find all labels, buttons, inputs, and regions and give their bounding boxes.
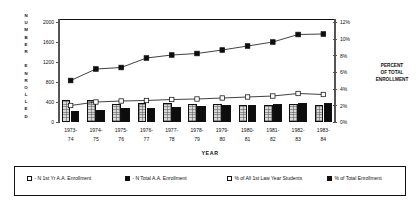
open-square-marker <box>119 99 123 103</box>
x-axis-tick-label-line1: 1975- <box>115 127 128 133</box>
x-axis-title: YEAR <box>0 150 420 156</box>
y-axis-left-title-char: N <box>20 12 32 19</box>
left-axis-tick-label: 1200 <box>30 59 54 65</box>
x-axis-tick-label-line1: 1980- <box>241 127 254 133</box>
open-square-marker <box>144 98 148 102</box>
chart-legend: - N 1st Yr A.A. Enrollment- N Total A.A.… <box>14 166 406 196</box>
open-square-icon <box>227 176 232 181</box>
plot-area: 2000160012008004000 12%10%8%6%4%2%0% <box>58 19 336 123</box>
filled-square-icon <box>125 176 130 181</box>
filled-square-marker <box>119 65 124 70</box>
open-square-marker <box>170 97 174 101</box>
legend-item-label: % of All 1st Law Year Students <box>234 175 312 182</box>
filled-square-marker <box>271 40 276 45</box>
y-axis-left-title-char: E <box>20 105 32 112</box>
legend-item: - N 1st Yr A.A. Enrollment <box>27 175 112 182</box>
filled-square-marker <box>321 32 326 37</box>
legend-item-label: - N 1st Yr A.A. Enrollment <box>34 175 112 182</box>
x-axis-tick-label-line1: 1983- <box>317 127 330 133</box>
filled-square-marker <box>94 67 99 72</box>
open-square-marker <box>271 94 275 98</box>
left-axis-tick-label: 2000 <box>30 19 54 25</box>
x-axis-tick-label: 1983-84 <box>308 126 338 143</box>
x-axis-tick-label-line2: 84 <box>308 135 338 144</box>
legend-item: % of All 1st Law Year Students <box>227 175 312 182</box>
right-axis-tick-label: 12% <box>340 19 364 25</box>
y-axis-left-title-char: M <box>20 26 32 33</box>
left-axis-tick-label: 800 <box>30 79 54 85</box>
line-series-group <box>58 19 336 123</box>
x-axis-tick-label-line1: 1982- <box>292 127 305 133</box>
x-axis-tick-label-line1: 1979- <box>216 127 229 133</box>
x-axis-tick-label-line1: 1976- <box>140 127 153 133</box>
open-square-icon <box>27 176 32 181</box>
filled-square-marker <box>195 51 200 56</box>
left-axis-tick-label: 1600 <box>30 39 54 45</box>
open-square-marker <box>245 95 249 99</box>
y-axis-right-title-line: ENROLLMENT <box>366 76 418 83</box>
open-square-marker <box>94 100 98 104</box>
right-axis-tick-label: 4% <box>340 86 364 92</box>
right-axis-tick-label: 2% <box>340 103 364 109</box>
x-axis-tick-label-line1: 1974- <box>89 127 102 133</box>
y-axis-right-title: PERCENTOF TOTALENROLLMENT <box>366 62 418 83</box>
filled-square-marker <box>169 53 174 58</box>
right-axis-tick-label: 6% <box>340 69 364 75</box>
filled-square-marker <box>144 56 149 61</box>
right-axis-tick-label: 0% <box>340 119 364 125</box>
y-axis-right-title-line: OF TOTAL <box>366 69 418 76</box>
y-axis-left-title-char: R <box>20 48 32 55</box>
x-axis-tick-label-line1: 1977- <box>165 127 178 133</box>
filled-square-icon <box>327 176 332 181</box>
left-axis-tick-label: 0 <box>30 119 54 125</box>
open-square-marker <box>220 96 224 100</box>
x-axis-tick-label-line1: 1973- <box>64 127 77 133</box>
y-axis-left-title-char: N <box>20 70 32 77</box>
open-square-marker <box>195 97 199 101</box>
y-axis-left-title-char: L <box>20 91 32 98</box>
filled-square-marker <box>296 32 301 37</box>
x-axis-tick-label-line1: 1978- <box>190 127 203 133</box>
left-axis-tick-label: 400 <box>30 99 54 105</box>
filled-square-marker <box>245 44 250 49</box>
x-axis-tick-labels: 1973-741974-751975-761976-771977-781978-… <box>58 126 336 148</box>
series-line <box>71 34 324 81</box>
y-axis-right-title-line: PERCENT <box>366 62 418 69</box>
open-square-marker <box>296 91 300 95</box>
open-square-marker <box>68 103 72 107</box>
filled-square-marker <box>220 48 225 53</box>
legend-item-label: - N Total A.A. Enrollment <box>132 175 210 182</box>
right-axis-tick-label: 10% <box>340 36 364 42</box>
filled-square-marker <box>68 78 73 83</box>
legend-item: % of Total Enrollment <box>327 175 412 182</box>
right-axis-tick-label: 8% <box>340 53 364 59</box>
legend-item: - N Total A.A. Enrollment <box>125 175 210 182</box>
enrollment-chart: NUMBERENROLLED PERCENTOF TOTALENROLLMENT… <box>0 0 420 209</box>
legend-item-label: % of Total Enrollment <box>334 175 412 182</box>
x-axis-tick-label-line1: 1981- <box>266 127 279 133</box>
open-square-marker <box>321 92 325 96</box>
